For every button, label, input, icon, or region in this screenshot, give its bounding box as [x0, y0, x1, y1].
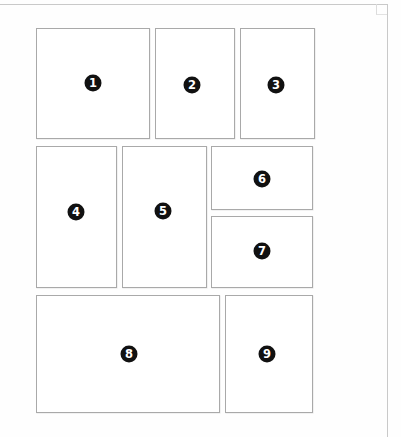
block-number-badge-2: 2 [184, 77, 201, 94]
block-number-badge-3: 3 [268, 77, 285, 94]
block-number-badge-5: 5 [155, 203, 172, 220]
block-number-badge-9: 9 [259, 346, 276, 363]
block-canvas: 123456789 [0, 0, 401, 437]
block-number-badge-6: 6 [254, 171, 271, 188]
block-number-badge-7: 7 [254, 243, 271, 260]
block-number-badge-1: 1 [85, 75, 102, 92]
block-number-badge-4: 4 [68, 204, 85, 221]
block-number-badge-8: 8 [121, 346, 138, 363]
